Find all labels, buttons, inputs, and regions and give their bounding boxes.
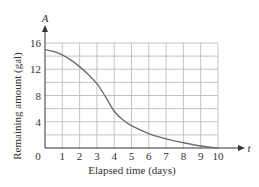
x-tick-label: 9 — [198, 150, 204, 162]
x-tick-label: 7 — [163, 150, 169, 162]
grid-lines — [45, 43, 218, 148]
y-tick-labels: 481216 — [30, 37, 42, 128]
y-tick-label: 16 — [30, 37, 42, 49]
origin-label: 0 — [35, 150, 41, 162]
x-tick-label: 1 — [60, 150, 66, 162]
x-tick-label: 5 — [129, 150, 135, 162]
y-axis-title: Remaining amount (gal) — [11, 52, 24, 160]
x-tick-label: 6 — [146, 150, 152, 162]
x-axis-variable: t — [247, 142, 251, 154]
x-axis-title: Elapsed time (days) — [88, 164, 176, 177]
y-tick-label: 4 — [36, 116, 42, 128]
y-axis-arrow-icon — [42, 25, 48, 32]
x-tick-label: 3 — [94, 150, 100, 162]
chart-canvas: 12345678910 481216 0 t A Elapsed time (d… — [0, 0, 259, 187]
x-tick-label: 10 — [213, 150, 225, 162]
x-tick-label: 4 — [111, 150, 117, 162]
x-tick-label: 2 — [77, 150, 83, 162]
x-axis-arrow-icon — [238, 145, 245, 151]
y-tick-label: 8 — [36, 90, 42, 102]
x-tick-label: 8 — [181, 150, 187, 162]
y-axis-variable: A — [41, 12, 49, 24]
x-tick-labels: 12345678910 — [60, 150, 224, 162]
y-tick-label: 12 — [30, 63, 41, 75]
